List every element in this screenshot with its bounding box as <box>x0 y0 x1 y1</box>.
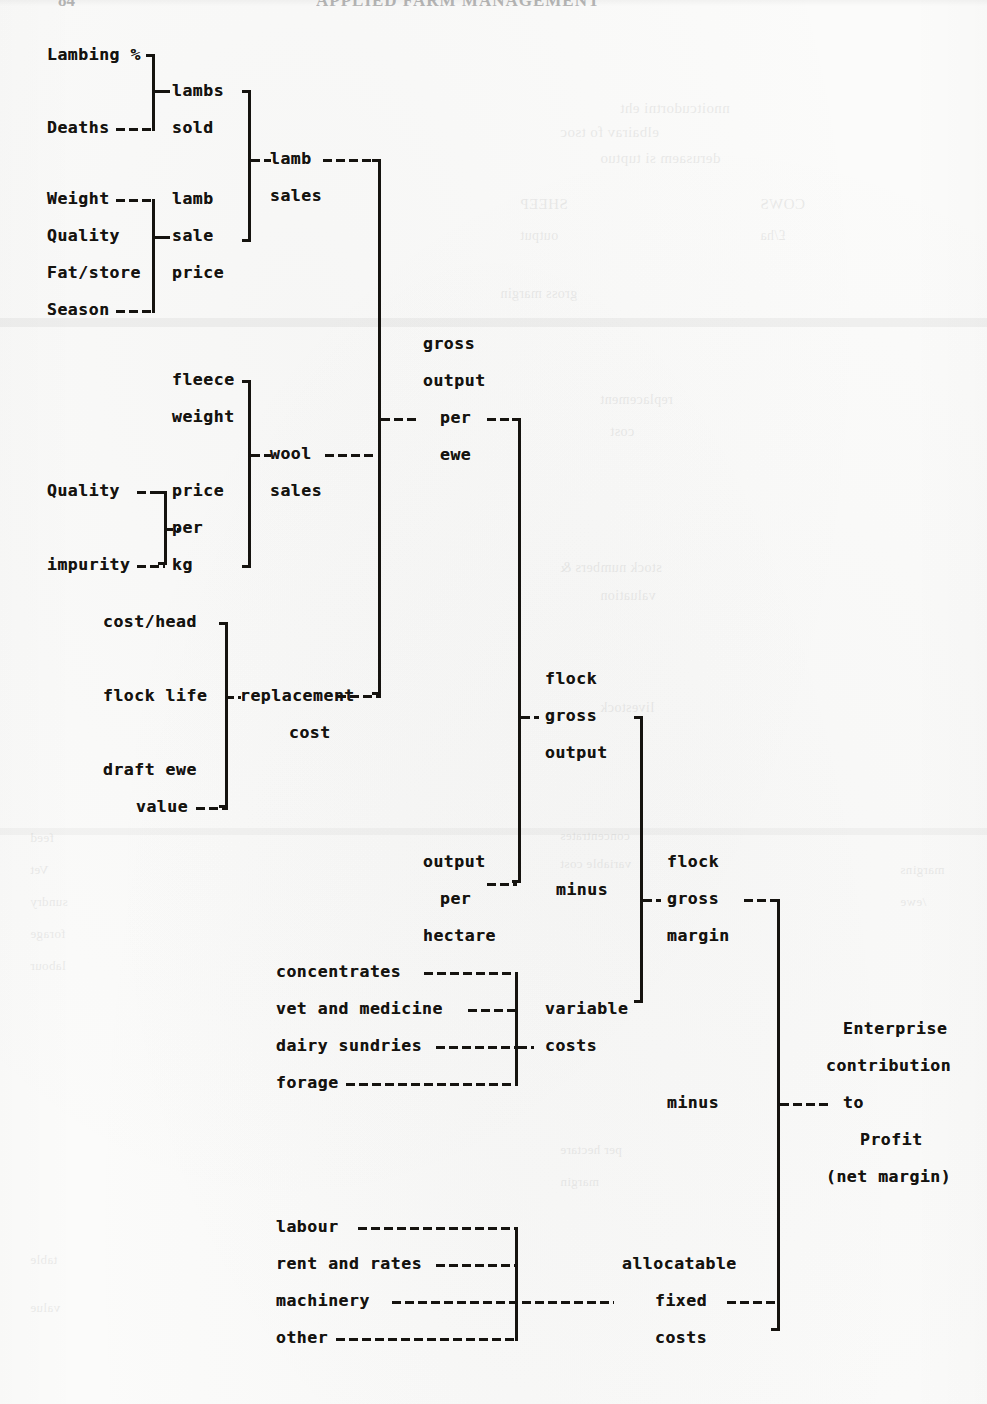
node-draft-ewe: draft ewe <box>103 761 197 779</box>
node-machinery: machinery <box>276 1292 370 1310</box>
node-sold: sold <box>172 119 214 137</box>
node-output-ha-2: per <box>440 890 471 908</box>
node-fat-store: Fat/store <box>47 264 141 282</box>
node-enterprise-5: (net margin) <box>826 1168 951 1186</box>
connector-ent-top-cap <box>771 899 780 902</box>
node-sale-word: sale <box>172 227 214 245</box>
node-costs-fixed: costs <box>655 1329 707 1347</box>
node-minus-fixed: minus <box>667 1094 719 1112</box>
node-replacement-cost: cost <box>289 724 331 742</box>
node-enterprise-4: Profit <box>860 1131 923 1149</box>
running-head: APPLIED FARM MANAGEMENT <box>316 0 600 11</box>
node-allocatable: allocatable <box>622 1255 737 1273</box>
node-costs-variable: costs <box>545 1037 597 1055</box>
connector-deaths-h <box>116 128 152 131</box>
connector-dairysundries-h <box>436 1046 518 1049</box>
connector-woolsales-out <box>325 454 377 457</box>
connector-variablecosts-stub <box>518 1046 534 1049</box>
connector-concentrates-h <box>424 972 516 975</box>
node-enterprise-3: to <box>843 1094 864 1112</box>
node-impurity: impurity <box>47 556 130 574</box>
node-dairy-sundries: dairy sundries <box>276 1037 422 1055</box>
connector-lambsales-in <box>251 159 271 162</box>
node-flock-gm-2: gross <box>667 890 719 908</box>
connector-vetmedicine-h <box>468 1009 518 1012</box>
node-fleece: fleece <box>172 371 235 389</box>
node-sales-wool: sales <box>270 482 322 500</box>
node-flock-go-1: flock <box>545 670 597 688</box>
connector-woolsales-bracket <box>248 380 251 568</box>
node-flock-go-2: gross <box>545 707 597 725</box>
connector-other-h <box>336 1338 517 1341</box>
connector-lambssold-stub <box>152 90 170 93</box>
node-other: other <box>276 1329 328 1347</box>
connector-variablecosts-bracket <box>515 972 518 1086</box>
node-season: Season <box>47 301 110 319</box>
node-lambs: lambs <box>172 82 224 100</box>
node-quality-wool: Quality <box>47 482 120 500</box>
node-price-word: price <box>172 264 224 282</box>
connector-replacement-bracket <box>225 622 228 808</box>
diagram-sheet: 84 APPLIED FARM MANAGEMENT Lambing % Dea… <box>0 0 987 1404</box>
connector-lambsales-bot-cap <box>242 239 251 242</box>
connector-lambsaleprice-bracket <box>152 199 155 313</box>
connector-rentrates-h <box>436 1264 517 1267</box>
connector-fgm-stub <box>643 899 661 902</box>
node-wool: wool <box>270 445 312 463</box>
page-folio: 84 <box>58 0 75 11</box>
node-lamb-word: lamb <box>172 190 214 208</box>
node-labour: labour <box>276 1218 339 1236</box>
connector-labour-h <box>358 1227 517 1230</box>
node-sales-lamb: sales <box>270 187 322 205</box>
connector-woolsales-top-cap <box>242 380 251 383</box>
connector-flockgrossmargin-bracket <box>640 716 643 1003</box>
node-price-wool: price <box>172 482 224 500</box>
connector-lambsaleprice-stub <box>152 236 170 239</box>
connector-replacement-stub <box>225 696 241 699</box>
connector-weight-h <box>116 199 154 202</box>
connector-fixedcosts-bracket <box>515 1227 518 1341</box>
node-kg: kg <box>172 556 193 574</box>
node-flock-gm-3: margin <box>667 927 730 945</box>
node-weight: Weight <box>47 190 110 208</box>
connector-value-h <box>196 807 228 810</box>
connector-forage-h <box>346 1083 518 1086</box>
connector-outputperhectare-h <box>487 883 517 886</box>
node-deaths: Deaths <box>47 119 110 137</box>
connector-pricekg-stub <box>164 528 180 531</box>
connector-lambssold-top-cap <box>146 54 155 57</box>
node-minus-variable: minus <box>556 881 608 899</box>
node-flock-life: flock life <box>103 687 207 705</box>
node-fleece-weight: weight <box>172 408 235 426</box>
connector-ent-bot-cap <box>771 1328 780 1331</box>
node-output-ha-3: hectare <box>423 927 496 945</box>
connector-impurity-h <box>137 565 165 568</box>
connector-fgm-top-cap <box>634 716 643 719</box>
connector-lambsales-out <box>323 159 379 162</box>
node-variable: variable <box>545 1000 628 1018</box>
node-lambing-percent: Lambing % <box>47 46 141 64</box>
node-forage: forage <box>276 1074 339 1092</box>
connector-enterprise-bracket <box>777 899 780 1331</box>
node-vet-and-medicine: vet and medicine <box>276 1000 443 1018</box>
node-quality-lamb: Quality <box>47 227 120 245</box>
connector-lambsales-bracket <box>248 90 251 242</box>
connector-machinery-h <box>392 1301 614 1304</box>
node-cost-head: cost/head <box>103 613 197 631</box>
node-flock-gm-1: flock <box>667 853 719 871</box>
connector-fixed-out <box>727 1301 779 1304</box>
node-enterprise-1: Enterprise <box>843 1020 947 1038</box>
connector-flockgrossoutput-bracket <box>518 418 521 883</box>
connector-fgo-stub <box>521 716 539 719</box>
node-gross: gross <box>423 335 475 353</box>
node-value: value <box>136 798 188 816</box>
connector-grossoutputperewe-bracket <box>378 159 381 695</box>
connector-enterprise-stub <box>780 1103 828 1106</box>
node-per-ewe-per: per <box>440 409 471 427</box>
node-rent-and-rates: rent and rates <box>276 1255 422 1273</box>
node-output-ha-1: output <box>423 853 486 871</box>
node-enterprise-2: contribution <box>826 1057 951 1075</box>
connector-gope-top-cap <box>372 159 381 162</box>
connector-gope-stub <box>381 418 417 421</box>
node-lamb: lamb <box>270 150 312 168</box>
